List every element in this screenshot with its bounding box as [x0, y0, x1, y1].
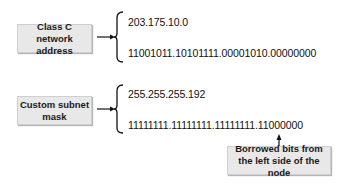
subnet-mask-binary: 11111111.11111111.11111111.11000000: [128, 119, 303, 131]
subnet-mask-decimal: 255.255.255.192: [128, 88, 205, 100]
callout-label-line: the left side of the node: [228, 155, 330, 179]
network-address-binary: 11001011.10101111.00001010.00000000: [128, 47, 316, 59]
brace-icon: [114, 85, 123, 133]
box-label-line: Custom subnet: [20, 99, 89, 111]
brace-icon: [114, 12, 123, 62]
class-c-network-address-box: Class C network address: [17, 24, 92, 53]
box-label-line: Class C network: [18, 21, 91, 45]
arrow-right-icon: [97, 107, 115, 112]
borrowed-bits-callout: Borrowed bits from the left side of the …: [227, 146, 331, 175]
arrow-right-icon: [97, 35, 115, 40]
custom-subnet-mask-box: Custom subnet mask: [17, 96, 92, 125]
network-address-decimal: 203.175.10.0: [128, 16, 188, 28]
box-label-line: address: [18, 45, 91, 57]
box-label-line: mask: [20, 111, 89, 123]
callout-label-line: Borrowed bits from: [228, 143, 330, 155]
